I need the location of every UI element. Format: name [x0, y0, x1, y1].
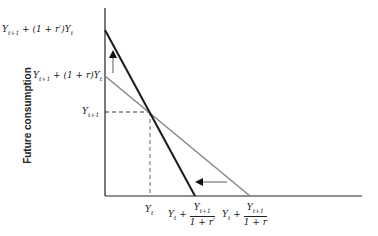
x-tick-original-rate: Yt + Yt+11 + r — [222, 202, 267, 227]
y-tick-original-rate: Yt+1 + (1 + r)Yt — [33, 70, 102, 82]
x-tick-new-rate: Yt + Yt+11 + r′ — [168, 202, 215, 227]
left-arrow-head — [195, 178, 203, 186]
x-tick-endowment: Yt — [145, 204, 153, 216]
y-tick-new-rate: Yt+1 + (1 + r′)Yt — [2, 24, 73, 36]
y-tick-endowment: Yt+1 — [82, 106, 99, 118]
budget-line-original-rate — [105, 76, 250, 196]
y-axis-label: Future consumption — [22, 61, 33, 171]
